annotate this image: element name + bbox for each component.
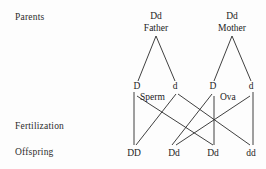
- mother-genotype: Dd: [218, 11, 246, 23]
- row-label-fertilization: Fertilization: [15, 121, 64, 132]
- parent-father: Dd Father: [144, 11, 168, 34]
- line-mother-to-ova-d: [232, 36, 251, 81]
- line-spermD-to-Dd2: [137, 96, 213, 145]
- parent-mother: Dd Mother: [218, 11, 246, 34]
- gamete-sperm-D: D: [134, 81, 141, 91]
- father-genotype: Dd: [144, 11, 168, 23]
- gamete-ova-d: d: [249, 81, 254, 91]
- line-spermd-to-dd: [178, 94, 250, 145]
- offspring-2: Dd: [168, 148, 180, 158]
- mother-role: Mother: [218, 23, 246, 35]
- line-father-to-sperm-d: [156, 36, 175, 81]
- line-father-to-sperm-D: [138, 36, 156, 81]
- line-mother-to-ova-D: [214, 36, 232, 81]
- line-ovaD-to-Dd1: [172, 94, 212, 145]
- label-ova: Ova: [220, 92, 236, 102]
- genetics-cross-diagram: Parents Fertilization Offspring Dd Fathe…: [0, 0, 266, 169]
- line-ovad-to-Dd1: [176, 96, 250, 145]
- row-label-offspring: Offspring: [15, 147, 54, 158]
- offspring-3: Dd: [207, 148, 219, 158]
- label-sperm: Sperm: [140, 92, 165, 102]
- father-role: Father: [144, 23, 168, 35]
- row-label-parents: Parents: [15, 12, 44, 23]
- gamete-sperm-d: d: [173, 81, 178, 91]
- offspring-1: DD: [127, 148, 141, 158]
- gamete-ova-D: D: [210, 81, 217, 91]
- offspring-4: dd: [246, 148, 256, 158]
